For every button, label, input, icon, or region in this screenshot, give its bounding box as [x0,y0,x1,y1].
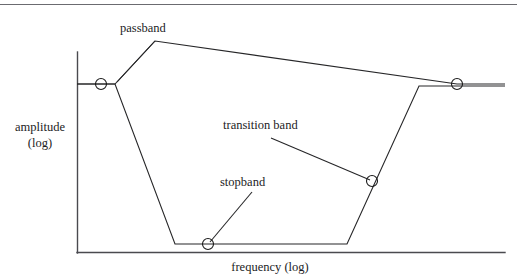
transition-band-annotation: transition band [223,117,298,133]
y-axis-label: amplitude (log) [4,119,76,151]
filter-response-diagram [0,0,517,279]
passband-leader-line [117,41,155,82]
lower-bound-curve [77,84,505,244]
stopband-leader-line [210,192,252,242]
x-axis-label: frequency (log) [210,259,330,275]
y-axis-label-line1: amplitude [4,119,76,135]
y-axis-label-line2: (log) [4,135,76,151]
passband-annotation: passband [120,20,166,36]
upper-bound-curve [77,41,505,84]
stopband-annotation: stopband [220,174,265,190]
figure-root: amplitude (log) passband transition band… [0,0,517,279]
transition-band-leader-line [271,138,370,180]
